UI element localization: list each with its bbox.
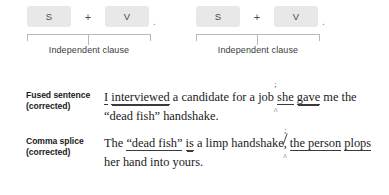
independent-clause-diagram: S + V . Independent clause S + V . Indep…	[0, 0, 389, 80]
bracket-tick-left	[196, 34, 197, 41]
clause-group-1: S + V . Independent clause	[17, 0, 187, 80]
clause-bracket-2	[196, 34, 320, 45]
subject-token-box: S	[27, 6, 71, 27]
comma-to-semicolon-mark-group: ,;^	[284, 134, 287, 153]
subject-underline: “dead fish”	[126, 136, 182, 151]
inserted-semicolon-icon: ;	[274, 80, 276, 88]
example-text-fused-sentence: I interviewed a candidate for a job;^ sh…	[104, 88, 372, 126]
bracket-tick-right	[319, 34, 320, 41]
corrected-examples-list: Fused sentence (corrected) I interviewed…	[0, 88, 389, 195]
clause-tail-text: her hand into yours.	[104, 155, 203, 169]
subject-token-box: S	[196, 6, 240, 27]
example-label-comma-splice: Comma splice (corrected)	[26, 136, 98, 158]
bracket-center-stem	[88, 34, 89, 45]
verb-token-box: V	[105, 6, 149, 27]
example-text-comma-splice: The “dead fish” is a limp handshake,;^ t…	[104, 134, 372, 172]
example-label-fused-sentence: Fused sentence (corrected)	[26, 90, 98, 112]
plus-operator-icon: +	[240, 6, 274, 27]
period-terminator: .	[322, 17, 325, 27]
clause-formula-1: S + V .	[17, 6, 187, 30]
caret-insertion-icon: ^	[283, 154, 287, 162]
subject-underline-continued: plops	[344, 136, 371, 151]
period-terminator: .	[153, 17, 156, 27]
clause-formula-2: S + V .	[186, 6, 356, 30]
inserted-semicolon-icon: ;	[284, 126, 286, 134]
verb-double-underline: interviewed	[111, 90, 170, 105]
semicolon-insertion-mark-group: ;^	[274, 88, 277, 107]
clause-label-1: Independent clause	[17, 45, 161, 55]
lead-text: The	[104, 136, 126, 150]
clause-label-2: Independent clause	[186, 45, 330, 55]
bracket-top-line	[27, 34, 151, 35]
clause-middle-text: a limp handshake	[194, 136, 284, 150]
plus-operator-icon: +	[71, 6, 105, 27]
clause-group-2: S + V . Independent clause	[186, 0, 356, 80]
caret-insertion-icon: ^	[274, 108, 278, 116]
clause-middle-text: a candidate for a job	[170, 90, 274, 104]
bracket-center-stem	[257, 34, 258, 45]
bracket-top-line	[196, 34, 320, 35]
verb-double-underline: is	[186, 136, 194, 151]
bracket-tick-right	[150, 34, 151, 41]
verb-double-underline: gave	[297, 90, 320, 105]
subject-underline: she	[277, 90, 294, 105]
subject-underline: the person	[290, 136, 341, 151]
clause-bracket-1	[27, 34, 151, 45]
bracket-tick-left	[27, 34, 28, 41]
verb-token-box: V	[274, 6, 318, 27]
